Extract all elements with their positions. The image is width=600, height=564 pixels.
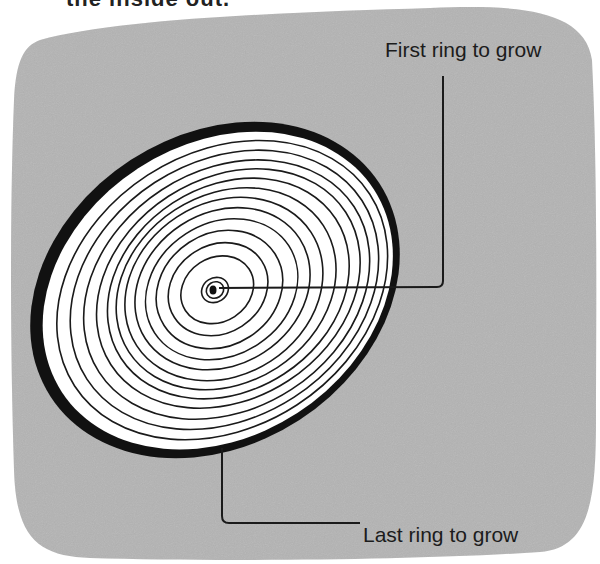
last-ring-label: Last ring to grow [363, 523, 518, 547]
first-ring-label: First ring to grow [385, 38, 541, 62]
pith-center [210, 286, 217, 295]
tree-ring-diagram [0, 0, 600, 564]
